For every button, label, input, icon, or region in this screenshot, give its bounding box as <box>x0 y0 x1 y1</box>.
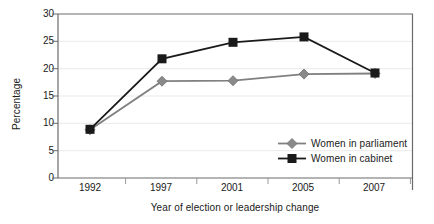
plot-area <box>0 0 434 224</box>
diamond-marker-icon <box>278 137 306 150</box>
data-point-parliament-2005 <box>299 69 309 79</box>
x-tick-marks <box>126 178 411 184</box>
legend-item-women-in-parliament: Women in parliament <box>278 136 407 151</box>
gridlines <box>58 41 413 150</box>
legend-label-women-in-cabinet: Women in cabinet <box>311 153 392 164</box>
data-point-cabinet-1992 <box>86 125 95 134</box>
data-point-parliament-2001 <box>228 76 238 86</box>
chart-container: Percentage 30 25 20 15 10 5 0 1992 1997 … <box>0 0 434 224</box>
data-point-parliament-1997 <box>157 76 167 86</box>
data-point-cabinet-2007 <box>371 69 380 78</box>
y-tick-marks <box>52 14 58 178</box>
data-point-cabinet-2001 <box>229 38 238 47</box>
square-marker-icon <box>278 152 306 165</box>
series-women-in-parliament <box>85 69 380 135</box>
data-point-cabinet-2005 <box>300 32 309 41</box>
legend-item-women-in-cabinet: Women in cabinet <box>278 151 407 166</box>
data-point-cabinet-1997 <box>158 54 167 63</box>
legend-label-women-in-parliament: Women in parliament <box>311 138 407 149</box>
chart-legend: Women in parliament Women in cabinet <box>278 136 407 166</box>
